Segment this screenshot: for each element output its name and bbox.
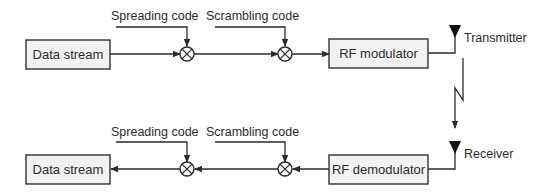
rx-scrambling-code-feed — [215, 142, 285, 162]
rf-modulator-block: RF modulator — [329, 39, 428, 68]
tx-scrambling-code-label: Scrambling code — [206, 9, 299, 23]
rx-spreading-code-feed — [116, 142, 187, 162]
rx-data-stream-label: Data stream — [33, 162, 104, 177]
rx-despreading-mixer-icon — [180, 162, 194, 176]
spread-spectrum-diagram: Data stream Spreading code Scrambling co… — [0, 0, 543, 194]
rx-scrambling-code-label: Scrambling code — [206, 125, 299, 139]
rf-modulator-label: RF modulator — [339, 46, 418, 61]
receiver-chain: Receiver RF demodulator Scrambling code … — [26, 125, 513, 184]
tx-data-stream-label: Data stream — [33, 47, 104, 62]
transmitter-antenna-icon — [449, 25, 461, 38]
rf-demodulator-block: RF demodulator — [329, 155, 428, 184]
rx-wire-antenna-to-demodulator — [428, 152, 455, 169]
rx-descrambling-mixer-icon — [278, 162, 292, 176]
tx-scrambling-mixer-icon — [278, 47, 292, 61]
tx-wire-modulator-to-antenna — [428, 34, 455, 53]
tx-spreading-code-feed — [116, 27, 187, 46]
transmitter-chain: Data stream Spreading code Scrambling co… — [26, 9, 527, 69]
rx-data-stream-block: Data stream — [26, 155, 110, 184]
tx-spreading-mixer-icon — [180, 47, 194, 61]
rf-demodulator-label: RF demodulator — [332, 162, 426, 177]
wireless-link-lightning-icon — [455, 58, 463, 128]
tx-scrambling-code-feed — [215, 27, 285, 46]
tx-data-stream-block: Data stream — [26, 40, 110, 69]
transmitter-label: Transmitter — [464, 31, 527, 45]
receiver-label: Receiver — [464, 147, 513, 161]
tx-spreading-code-label: Spreading code — [111, 9, 199, 23]
rx-spreading-code-label: Spreading code — [111, 125, 199, 139]
